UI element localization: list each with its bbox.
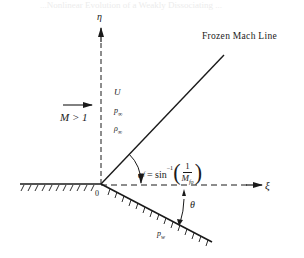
formula-equals-sin: = sin <box>147 169 167 180</box>
fraction-numerator: 1 <box>183 161 192 173</box>
frozen-mach-line-diagram: ...Nonlinear Evolution of a Weakly Disso… <box>0 0 304 258</box>
freestream-mach-label: M > 1 <box>60 112 88 123</box>
right-paren: ) <box>195 162 202 185</box>
eta-axis-label: η <box>97 12 102 22</box>
denominator-symbol: M <box>181 173 189 183</box>
density-subscript: ∞ <box>118 129 122 135</box>
alpha-formula: αf = sin−1 ( 1 Mfo ) <box>138 161 202 188</box>
upstream-wall <box>20 184 101 191</box>
wall-pressure-label: pw <box>157 230 165 240</box>
denominator-subscript: fo <box>189 179 194 185</box>
fraction-denominator: Mfo <box>181 173 193 188</box>
theta-angle-arc <box>177 189 186 226</box>
freestream-density-label: ρ∞ <box>114 125 122 135</box>
origin-label: 0 <box>95 190 99 198</box>
freestream-pressure-label: p∞ <box>114 107 122 117</box>
xi-axis-label: ξ <box>265 180 270 191</box>
pressure-subscript: ∞ <box>118 111 122 117</box>
alpha-subscript: f <box>143 171 145 177</box>
left-paren: ( <box>173 162 180 185</box>
velocity-label: U <box>114 88 121 97</box>
theta-label: θ <box>190 200 195 210</box>
wall-pressure-subscript: w <box>161 234 165 240</box>
frozen-mach-line-label: Frozen Mach Line <box>202 32 277 42</box>
formula-fraction: 1 Mfo <box>181 161 193 188</box>
